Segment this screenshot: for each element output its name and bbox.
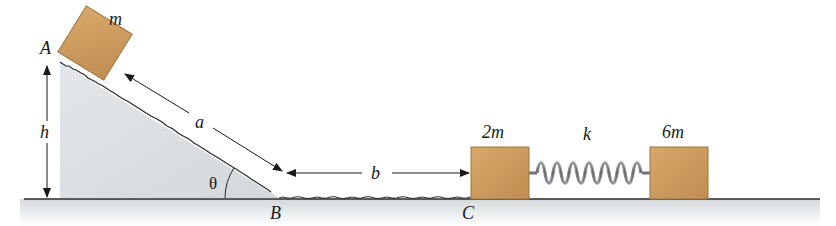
height-label: h [40, 122, 49, 142]
block-6m [650, 147, 708, 199]
incline-length-label: a [195, 112, 204, 132]
physics-diagram: θ m A B C h a b 2m k 6m [0, 0, 836, 226]
point-label-c: C [462, 203, 475, 223]
point-label-b: B [270, 203, 281, 223]
ground [20, 199, 820, 226]
mass-label-m: m [109, 9, 122, 29]
point-label-a: A [39, 38, 52, 58]
flat-distance-label: b [371, 163, 380, 183]
mass-label-6m: 6m [662, 122, 684, 142]
angle-label: θ [209, 174, 217, 193]
mass-label-2m: 2m [482, 122, 504, 142]
incline-ramp [60, 62, 487, 199]
block-2m [471, 147, 529, 199]
spring [529, 163, 650, 184]
spring-label: k [583, 124, 592, 144]
